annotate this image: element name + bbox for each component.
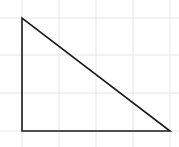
diagram-canvas	[0, 0, 179, 147]
grid-triangle-diagram	[0, 0, 179, 147]
